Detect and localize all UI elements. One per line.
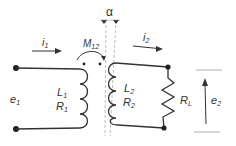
primary-coil <box>80 69 88 128</box>
label-m12: M12 <box>83 38 99 50</box>
polarity-dot-secondary <box>99 63 102 66</box>
alpha-arrow-right <box>113 20 119 24</box>
circuit-diagram: i1 i2 M12 α e1 L1 R1 L2 R2 RL e2 <box>0 0 236 146</box>
e2-voltage-arrow <box>205 84 206 124</box>
e2-arrow-head <box>202 78 208 86</box>
label-e2: e2 <box>211 94 221 107</box>
label-L2: L2 <box>124 82 134 95</box>
axis-line-vertical <box>105 20 106 136</box>
label-L1: L1 <box>57 86 67 99</box>
load-resistor <box>162 67 174 128</box>
wire-right-top <box>116 63 168 67</box>
mutual-inductance-arrow <box>77 51 104 60</box>
resistor-node-top <box>165 64 170 69</box>
mutual-arrow-head <box>101 56 106 61</box>
resistor-node-bottom <box>161 125 166 130</box>
label-alpha: α <box>106 5 113 19</box>
wire-left-bottom <box>16 128 80 129</box>
label-R2: R2 <box>123 96 135 109</box>
label-i1: i1 <box>42 36 48 49</box>
i1-arrow-head <box>55 48 62 54</box>
label-RL: RL <box>180 94 192 107</box>
polarity-dot-primary <box>83 63 86 66</box>
label-R1: R1 <box>56 100 68 113</box>
wire-right-bottom <box>118 125 164 128</box>
label-e1: e1 <box>10 93 20 106</box>
wire-left-top <box>16 68 80 69</box>
i2-arrow <box>133 46 158 49</box>
label-i2: i2 <box>143 31 149 44</box>
i2-arrow-head <box>156 46 163 52</box>
